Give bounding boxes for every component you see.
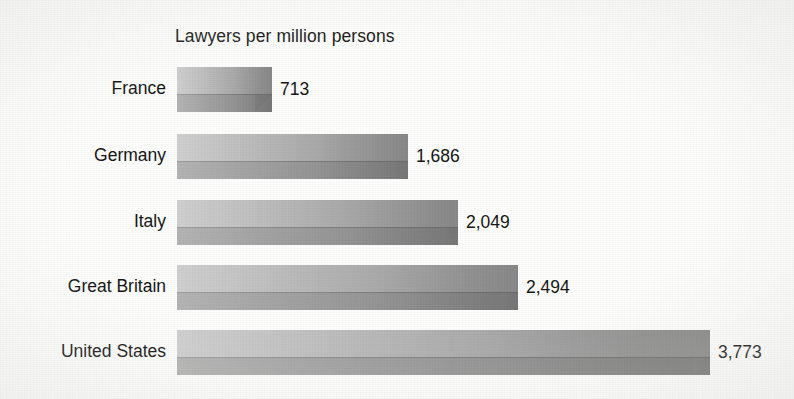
bar-chart-plot-area: France 713 Germany 1,686 Italy [0, 0, 794, 399]
bar-face-top [177, 265, 518, 293]
value-label-france: 713 [280, 79, 309, 100]
category-label-germany: Germany [0, 145, 166, 166]
bar-united-states[interactable] [177, 330, 710, 375]
bar-face-bottom [177, 162, 408, 179]
bar-face-bottom [177, 293, 518, 310]
bar-face-top [177, 200, 458, 228]
bar-face-top [177, 330, 710, 358]
bar-face-bottom [177, 358, 710, 375]
value-label-united-states: 3,773 [718, 342, 762, 363]
value-label-germany: 1,686 [416, 146, 460, 167]
category-label-france: France [0, 78, 166, 99]
category-label-great-britain: Great Britain [0, 276, 166, 297]
category-label-italy: Italy [0, 211, 166, 232]
chart-figure: Lawyers per million persons France 713 G… [0, 0, 794, 399]
bar-france[interactable] [177, 67, 272, 112]
bar-face-bottom [177, 228, 458, 245]
category-label-united-states: United States [0, 341, 166, 362]
bar-face-top [177, 67, 272, 95]
bar-italy[interactable] [177, 200, 458, 245]
value-label-italy: 2,049 [466, 212, 510, 233]
value-label-great-britain: 2,494 [526, 277, 570, 298]
bar-great-britain[interactable] [177, 265, 518, 310]
bar-germany[interactable] [177, 134, 408, 179]
bar-face-top [177, 134, 408, 162]
